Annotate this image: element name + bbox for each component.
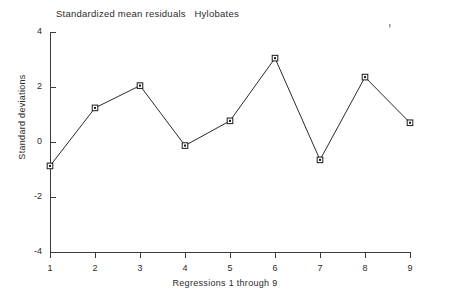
data-point-center	[49, 165, 51, 167]
axes-group	[50, 32, 410, 252]
data-point-center	[319, 159, 321, 161]
chart-figure: Standardized mean residuals Hylobates St…	[0, 0, 450, 300]
data-point-center	[139, 85, 141, 87]
x-tick-marks	[50, 252, 410, 258]
y-tick-marks	[50, 32, 56, 252]
data-point-center	[94, 107, 96, 109]
data-series-markers	[47, 55, 413, 168]
data-point-center	[184, 145, 186, 147]
data-point-center	[274, 57, 276, 59]
scan-speck	[389, 24, 391, 27]
data-point-center	[364, 76, 366, 78]
data-series-line	[50, 58, 410, 166]
plot-area	[0, 0, 450, 300]
data-point-center	[409, 122, 411, 124]
data-point-center	[229, 120, 231, 122]
